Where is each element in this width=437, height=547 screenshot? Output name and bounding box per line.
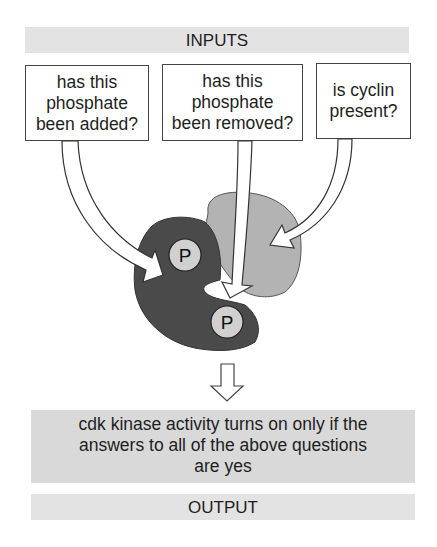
result-band: cdk kinase activity turns on only if the… — [31, 410, 415, 483]
arrow-phosphate-added — [62, 141, 163, 282]
output-band: OUTPUT — [31, 494, 415, 520]
result-line: are yes — [31, 456, 415, 477]
phosphate-label-1: P — [179, 245, 192, 266]
arrow-cyclin-present — [270, 139, 352, 248]
result-line: cdk kinase activity turns on only if the — [31, 414, 415, 435]
down-arrow-icon — [211, 364, 243, 401]
result-line: answers to all of the above questions — [31, 435, 415, 456]
phosphate-label-2: P — [221, 312, 234, 333]
